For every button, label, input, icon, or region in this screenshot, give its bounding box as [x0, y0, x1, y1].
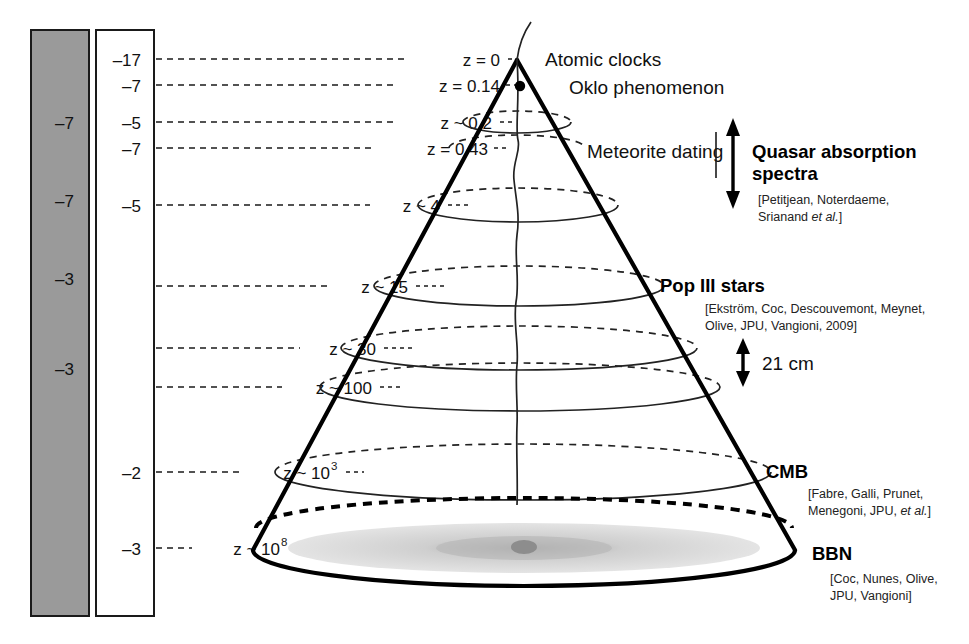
- annotation-meteorite: Meteorite dating: [587, 141, 723, 162]
- pop3-label: Pop III stars: [660, 275, 765, 296]
- slice-front-arc-z30: [341, 348, 697, 370]
- redshift-label-z1e8-exponent: 8: [281, 536, 287, 548]
- slice-back-arc-z30: [341, 326, 697, 348]
- quasar-label-line1: Quasar absorption: [752, 141, 916, 162]
- quasar-citation-line1: [Petitjean, Noterdaeme,: [758, 193, 889, 207]
- gray-column-label-1: –7: [55, 192, 74, 211]
- twentyone-cm-arrow-head-down: [736, 371, 750, 387]
- redshift-row-z1e3: z ~ 10 3: [156, 460, 364, 483]
- annotation-cmb: CMB [Fabre, Galli, Prunet, Menegoni, JPU…: [766, 461, 931, 518]
- quasar-label-line2: spectra: [752, 163, 819, 184]
- pop3-citation-line2: Olive, JPU, Vangioni, 2009]: [705, 319, 857, 333]
- bbn-label: BBN: [812, 543, 852, 564]
- cmb-citation-line1: [Fabre, Galli, Prunet,: [808, 487, 923, 501]
- pop3-citation-line1: [Ekström, Coc, Descouvemont, Meynet,: [705, 302, 925, 316]
- bbn-citation-line1: [Coc, Nunes, Olive,: [830, 572, 938, 586]
- atomic-clocks-label: Atomic clocks: [545, 49, 661, 70]
- redshift-row-z0: z = 0: [156, 51, 516, 70]
- gray-column-label-2: –3: [55, 270, 74, 289]
- white-column-label-1: –7: [122, 77, 141, 96]
- apex-worldline: [514, 60, 519, 505]
- slice-back-arc-z15: [374, 266, 664, 286]
- quasar-range-arrow: [726, 118, 740, 209]
- oklo-label: Oklo phenomenon: [569, 77, 724, 98]
- quasar-arrow-head-down: [726, 191, 740, 209]
- redshift-label-z1e3-exponent: 3: [331, 460, 337, 472]
- gray-column-label-0: –7: [55, 114, 74, 133]
- cmb-citation-line2-b: et al.: [900, 504, 927, 518]
- slice-back-arc-z1e3: [275, 444, 771, 472]
- white-column-label-5: –2: [122, 464, 141, 483]
- gray-exponent-column: –7 –7 –3 –3: [31, 30, 89, 616]
- twentyone-cm-label: 21 cm: [762, 353, 814, 374]
- redshift-row-z15: z ~ 15: [156, 278, 444, 297]
- cmb-citation-line2-a: Menegoni, JPU,: [808, 504, 900, 518]
- cmb-label: CMB: [766, 461, 808, 482]
- slice-back-arc-z100: [320, 363, 720, 387]
- quasar-arrow-head-up: [726, 118, 740, 136]
- white-column-label-3: –7: [122, 140, 141, 159]
- redshift-label-z043: z = 0.43: [427, 140, 488, 159]
- quasar-citation-line2: Srianand et al.]: [758, 210, 842, 224]
- quasar-citation-line2-a: Srianand: [758, 210, 812, 224]
- cmb-citation-line2: Menegoni, JPU, et al.]: [808, 504, 931, 518]
- annotation-pop3: Pop III stars [Ekström, Coc, Descouvemon…: [660, 275, 925, 333]
- redshift-row-z014: z = 0.14: [156, 77, 518, 96]
- bbn-citation-line2: JPU, Vangioni]: [830, 589, 912, 603]
- annotation-bbn: BBN [Coc, Nunes, Olive, JPU, Vangioni]: [812, 543, 938, 603]
- redshift-row-z100: z ~ 100: [156, 379, 400, 398]
- gray-column-label-3: –3: [55, 360, 74, 379]
- cmb-citation-line2-c: ]: [928, 504, 931, 518]
- cosmic-history-cone-figure: –7 –7 –3 –3 –17 –7 –5 –7 –5 –2 –3 z = 0 …: [0, 0, 969, 644]
- oklo-event-dot: [515, 81, 525, 91]
- white-column-label-6: –3: [122, 540, 141, 559]
- bbn-core-dot: [511, 540, 537, 554]
- twentyone-cm-arrow-head-up: [736, 338, 750, 354]
- meteorite-dating-label: Meteorite dating: [587, 141, 723, 162]
- white-exponent-column: –17 –7 –5 –7 –5 –2 –3: [96, 30, 154, 616]
- white-column-label-0: –17: [113, 51, 141, 70]
- white-column-label-4: –5: [122, 197, 141, 216]
- quasar-citation-line2-c: ]: [839, 210, 842, 224]
- redshift-label-z0: z = 0: [463, 51, 500, 70]
- redshift-label-z014: z = 0.14: [439, 77, 500, 96]
- white-column-label-2: –5: [122, 114, 141, 133]
- slice-front-arc-z15: [374, 286, 664, 306]
- redshift-row-z4: z ~ 4: [156, 197, 472, 216]
- redshift-row-z02: z ~ 0.2: [156, 114, 512, 133]
- annotation-atomic-clocks: Atomic clocks: [545, 49, 661, 70]
- slice-front-arc-z100: [320, 387, 720, 411]
- redshift-row-z30: z ~ 30: [156, 340, 416, 359]
- quasar-citation-line2-b: et al.: [812, 210, 839, 224]
- twentyone-cm-arrow: [736, 338, 750, 387]
- slice-front-arc-z1e3: [275, 472, 771, 500]
- annotation-quasar: Quasar absorption spectra [Petitjean, No…: [752, 141, 916, 224]
- annotation-oklo: Oklo phenomenon: [569, 77, 724, 98]
- apex-upper-whisker: [517, 22, 531, 60]
